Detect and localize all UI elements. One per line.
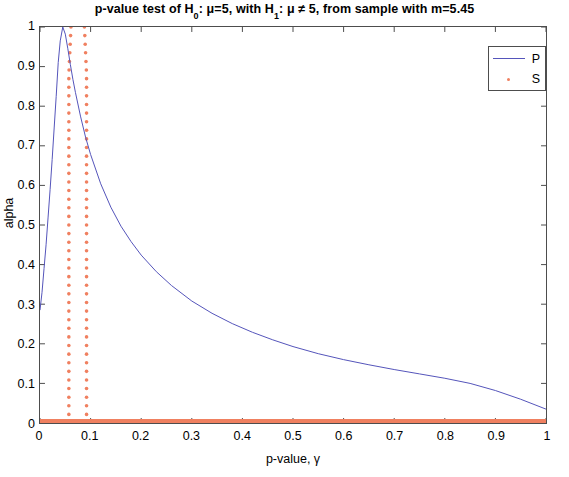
x-tick-label: 0.3 <box>171 429 211 443</box>
chart-title-subscript-1: 1 <box>274 11 279 21</box>
x-tick-label: 0 <box>19 429 59 443</box>
x-tick-label: 0.6 <box>324 429 364 443</box>
plot-svg <box>40 27 546 423</box>
x-tick-label: 0.8 <box>425 429 465 443</box>
chart-title-part-c: : μ ≠ 5, from sample with m=5.45 <box>279 2 474 16</box>
chart-title-part-b: : μ=5, with H <box>199 2 274 16</box>
x-tick-label: 0.2 <box>121 429 161 443</box>
chart-title-subscript-0: 0 <box>194 11 199 21</box>
legend-box: P S <box>488 46 546 91</box>
y-tick-label: 0.8 <box>1 99 35 113</box>
x-tick-label: 0.7 <box>375 429 415 443</box>
x-tick-label: 0.9 <box>476 429 516 443</box>
x-tick-label: 0.1 <box>70 429 110 443</box>
axis-tick-marks <box>40 27 546 423</box>
x-axis-tick-labels: 00.10.20.30.40.50.60.70.80.91 <box>39 429 547 449</box>
y-tick-label: 0.3 <box>1 298 35 312</box>
y-tick-label: 0.9 <box>1 59 35 73</box>
plot-area <box>39 26 547 424</box>
y-tick-label: 0.4 <box>1 258 35 272</box>
y-tick-label: 0.1 <box>1 377 35 391</box>
y-tick-label: 1 <box>1 19 35 33</box>
figure-canvas: p-value test of H0: μ=5, with H1: μ ≠ 5,… <box>0 0 569 477</box>
series-p-line <box>40 27 546 409</box>
x-axis-label: p-value, γ <box>39 452 547 466</box>
chart-title: p-value test of H0: μ=5, with H1: μ ≠ 5,… <box>0 2 569 19</box>
legend-entry-s: S <box>489 68 545 90</box>
y-axis-label: alpha <box>2 183 16 243</box>
x-tick-label: 0.5 <box>273 429 313 443</box>
legend-dot-icon <box>507 78 510 81</box>
y-tick-label: 0.7 <box>1 138 35 152</box>
series-s-dots <box>67 27 88 423</box>
legend-label-s: S <box>532 71 540 87</box>
legend-entry-p: P <box>489 48 545 70</box>
chart-title-part-a: p-value test of H <box>95 2 194 16</box>
x-tick-label: 0.4 <box>222 429 262 443</box>
y-tick-label: 0.2 <box>1 337 35 351</box>
x-tick-label: 1 <box>527 429 567 443</box>
legend-label-p: P <box>532 51 540 67</box>
legend-line-icon <box>493 58 525 59</box>
